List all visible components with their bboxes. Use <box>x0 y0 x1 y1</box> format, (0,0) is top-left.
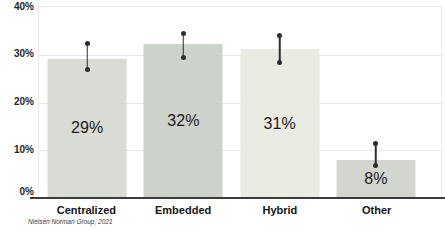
y-axis-tick-label: 40% <box>0 1 34 13</box>
bar-centralized: 29% <box>48 59 127 198</box>
x-axis-line <box>30 197 445 199</box>
bar-group-embedded: 32% <box>135 7 231 198</box>
bar-embedded: 32% <box>144 44 223 198</box>
error-bar-embedded <box>181 31 186 60</box>
bar-chart: 40% 30% 20% 10% 0% 29% 32% <box>0 0 445 230</box>
error-bar-centralized <box>85 41 90 72</box>
y-axis-tick-label: 20% <box>0 96 34 108</box>
error-bar-lower-dot <box>277 60 282 65</box>
error-bar-lower-dot <box>181 55 186 60</box>
bar-value-label: 8% <box>364 170 387 188</box>
bar-group-centralized: 29% <box>39 7 135 198</box>
bar-value-label: 31% <box>264 115 296 133</box>
y-axis-tick-label: 30% <box>0 48 34 60</box>
x-axis-labels: Centralized Embedded Hybrid Other <box>38 204 425 216</box>
error-bar-hybrid <box>277 33 282 64</box>
bar-group-hybrid: 31% <box>232 7 328 198</box>
error-bar-lower-dot <box>373 163 378 168</box>
x-axis-category-label: Embedded <box>135 204 232 216</box>
error-bar-other <box>373 141 378 168</box>
plot-area: 29% 32% 31% <box>38 6 442 198</box>
error-bar-lower-dot <box>85 67 90 72</box>
x-axis-category-label: Hybrid <box>232 204 329 216</box>
bars-container: 29% 32% 31% <box>39 7 424 198</box>
x-axis-category-label: Other <box>328 204 425 216</box>
source-note: Nielsen Norman Group, 2021 <box>28 218 113 225</box>
bar-hybrid: 31% <box>240 49 319 198</box>
error-bar-line <box>279 35 281 62</box>
x-axis-category-label: Centralized <box>38 204 135 216</box>
error-bar-line <box>86 43 88 70</box>
bar-group-other: 8% <box>328 7 424 198</box>
bar-value-label: 29% <box>71 119 103 137</box>
bar-value-label: 32% <box>167 112 199 130</box>
y-axis-tick-label: 0% <box>0 186 34 198</box>
y-axis-tick-label: 10% <box>0 144 34 156</box>
